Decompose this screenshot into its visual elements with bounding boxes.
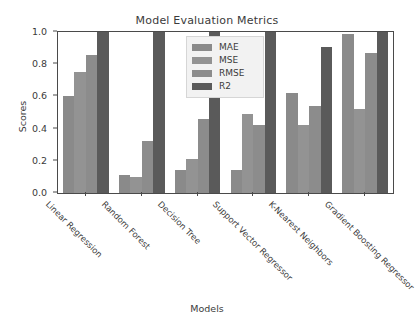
bar-mse-0 xyxy=(74,72,85,193)
x-axis-title: Models xyxy=(0,303,414,314)
y-tick-label: 1.0 xyxy=(32,26,47,37)
bar-rmse-3 xyxy=(253,125,264,193)
legend-label: RMSE xyxy=(219,69,244,78)
bar-mse-4 xyxy=(298,125,309,193)
x-tick-mark xyxy=(308,192,309,196)
legend-label: MAE xyxy=(219,43,239,52)
y-tick-label: 0.2 xyxy=(32,154,47,165)
y-tick-label: 0.6 xyxy=(32,90,47,101)
bar-mae-3 xyxy=(231,170,242,193)
bar-r2-1 xyxy=(153,32,164,193)
y-axis-title: Scores xyxy=(17,87,28,147)
x-tick-label: Random Forest xyxy=(100,199,152,251)
bar-mae-0 xyxy=(63,96,74,193)
chart-legend: MAEMSERMSER2 xyxy=(186,36,264,98)
legend-label: R2 xyxy=(219,82,231,91)
bar-mae-5 xyxy=(342,34,353,193)
y-tick-label: 0.8 xyxy=(32,58,47,69)
bar-mse-2 xyxy=(186,159,197,193)
bar-rmse-4 xyxy=(309,106,320,193)
legend-swatch-icon xyxy=(192,44,212,51)
x-tick-mark xyxy=(364,192,365,196)
legend-item-r2[interactable]: R2 xyxy=(192,80,258,93)
bar-mae-1 xyxy=(119,175,130,193)
bar-rmse-1 xyxy=(142,141,153,193)
y-axis: 0.00.20.40.60.81.0 xyxy=(0,0,57,328)
bar-rmse-2 xyxy=(198,119,209,193)
legend-swatch-icon xyxy=(192,57,212,64)
x-tick-mark xyxy=(85,192,86,196)
legend-label: MSE xyxy=(219,56,238,65)
legend-item-mae[interactable]: MAE xyxy=(192,41,258,54)
bar-rmse-0 xyxy=(86,55,97,193)
bar-r2-5 xyxy=(377,32,388,193)
y-tick-label: 0.4 xyxy=(32,122,47,133)
x-tick-mark xyxy=(197,192,198,196)
bar-rmse-5 xyxy=(365,53,376,193)
legend-item-mse[interactable]: MSE xyxy=(192,54,258,67)
legend-item-rmse[interactable]: RMSE xyxy=(192,67,258,80)
x-tick-mark xyxy=(252,192,253,196)
x-tick-label: Decision Tree xyxy=(156,199,203,246)
bar-r2-4 xyxy=(321,47,332,194)
bar-mse-1 xyxy=(130,177,141,193)
y-tick-label: 0.0 xyxy=(32,187,47,198)
bar-mse-3 xyxy=(242,114,253,193)
x-tick-mark xyxy=(141,192,142,196)
bar-r2-0 xyxy=(97,32,108,193)
bar-r2-3 xyxy=(265,32,276,193)
legend-swatch-icon xyxy=(192,70,212,77)
bar-mae-4 xyxy=(286,93,297,193)
legend-swatch-icon xyxy=(192,83,212,90)
bar-mae-2 xyxy=(175,170,186,193)
chart-title: Model Evaluation Metrics xyxy=(0,14,414,27)
x-tick-label: Gradient Boosting Regressor xyxy=(323,199,416,292)
bar-mse-5 xyxy=(354,109,365,193)
